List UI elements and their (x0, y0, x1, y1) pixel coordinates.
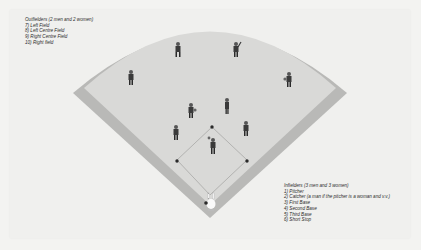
outfielders-legend: Outfielders (2 men and 2 women) 7) Left … (25, 17, 93, 46)
second-base (210, 125, 213, 128)
infielder-item: 6) Short Stop (284, 217, 390, 223)
third-base (175, 159, 178, 162)
outfielders-title: Outfielders (2 men and 2 women) (25, 17, 93, 23)
first-base (245, 159, 248, 162)
outfield (84, 32, 336, 206)
infielders-legend: Infielders (3 men and 3 women) 1) Pitche… (284, 183, 390, 223)
outfielder-item: 10) Right field (25, 40, 93, 46)
